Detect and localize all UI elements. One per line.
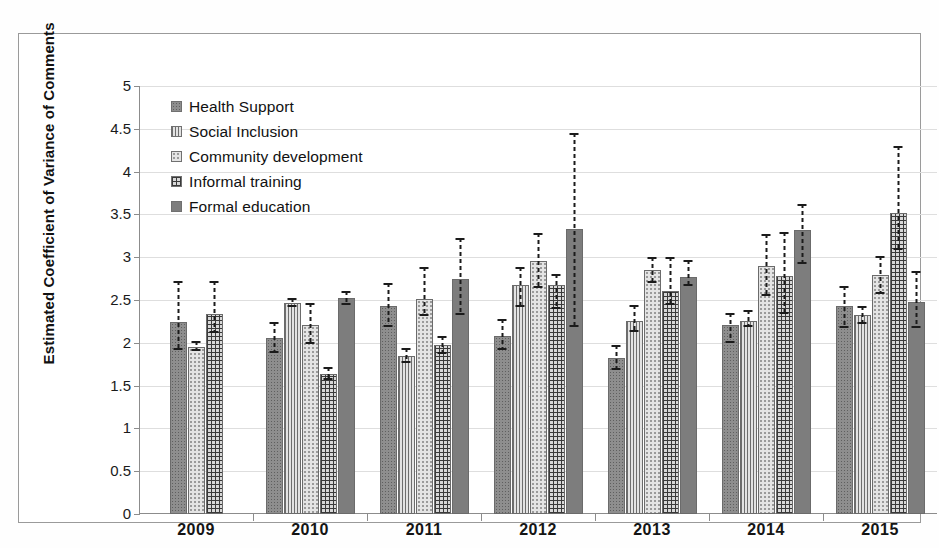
bar-slot: [794, 86, 811, 514]
legend-label: Community development: [189, 148, 363, 166]
x-axis-label-2009: 2009: [139, 521, 253, 539]
bar-group-2015: [823, 86, 937, 514]
x-axis-label-2015: 2015: [823, 521, 937, 539]
error-bar-cap-top: [192, 341, 201, 343]
bar-community-development-2009[interactable]: [188, 347, 205, 514]
bar-informal-training-2013[interactable]: [662, 291, 679, 514]
bar-informal-training-2011[interactable]: [434, 345, 451, 514]
legend-item-social-inclusion[interactable]: Social Inclusion: [171, 119, 363, 144]
bar-formal-education-2014[interactable]: [794, 230, 811, 514]
error-bar-cap-top: [612, 345, 621, 347]
bar-slot: [380, 86, 397, 514]
bar-social-inclusion-2013[interactable]: [626, 321, 643, 514]
error-bar-cap-top: [912, 271, 921, 273]
error-bar-cap-top: [534, 233, 543, 235]
bar-health-support-2013[interactable]: [608, 358, 625, 514]
bar-informal-training-2014[interactable]: [776, 276, 793, 514]
error-bar-cap-top: [288, 298, 297, 300]
x-axis-label-2011: 2011: [367, 521, 481, 539]
legend-label: Informal training: [189, 173, 302, 191]
bar-group-2013: [595, 86, 709, 514]
y-tick-label: 3.5: [71, 205, 131, 222]
bar-health-support-2009[interactable]: [170, 322, 187, 514]
error-bar-cap-top: [726, 313, 735, 315]
bar-informal-training-2010[interactable]: [320, 374, 337, 514]
bar-slot: [398, 86, 415, 514]
bar-slot: [494, 86, 511, 514]
figure-frame: Estimated Coefficient of Variance of Com…: [18, 33, 921, 523]
error-bar-cap-top: [384, 283, 393, 285]
y-tick-label: 0.5: [71, 462, 131, 479]
chart-figure: Estimated Coefficient of Variance of Com…: [0, 0, 939, 548]
error-bar-cap-top: [438, 336, 447, 338]
y-tick-label: 1: [71, 419, 131, 436]
legend: Health SupportSocial InclusionCommunity …: [171, 94, 363, 219]
bar-informal-training-2009[interactable]: [206, 314, 223, 514]
bar-social-inclusion-2012[interactable]: [512, 285, 529, 514]
bar-slot: [740, 86, 757, 514]
bar-community-development-2010[interactable]: [302, 325, 319, 514]
bar-formal-education-2013[interactable]: [680, 277, 697, 514]
error-bar-cap-top: [270, 322, 279, 324]
bar-community-development-2014[interactable]: [758, 266, 775, 514]
x-axis-label-2010: 2010: [253, 521, 367, 539]
bar-group-2011: [367, 86, 481, 514]
error-bar-cap-top: [744, 310, 753, 312]
bar-slot: [662, 86, 679, 514]
error-bar-cap-top: [402, 348, 411, 350]
error-bar-cap-top: [840, 286, 849, 288]
legend-label: Health Support: [189, 98, 294, 116]
legend-item-health-support[interactable]: Health Support: [171, 94, 363, 119]
bar-formal-education-2011[interactable]: [452, 279, 469, 514]
bar-informal-training-2015[interactable]: [890, 213, 907, 514]
bar-formal-education-2010[interactable]: [338, 298, 355, 514]
error-bar-cap-top: [630, 305, 639, 307]
bar-slot: [452, 86, 469, 514]
bar-community-development-2015[interactable]: [872, 275, 889, 514]
bar-slot: [758, 86, 775, 514]
legend-item-informal-training[interactable]: Informal training: [171, 169, 363, 194]
error-bar-cap-top: [552, 274, 561, 276]
legend-label: Social Inclusion: [189, 123, 298, 141]
error-bar-cap-top: [780, 232, 789, 234]
bar-social-inclusion-2014[interactable]: [740, 321, 757, 514]
y-tick-label: 5: [71, 77, 131, 94]
bar-slot: [854, 86, 871, 514]
error-bar-cap-top: [648, 257, 657, 259]
y-tick-label: 4.5: [71, 120, 131, 137]
x-axis-label-2014: 2014: [709, 521, 823, 539]
error-bar-cap-top: [306, 303, 315, 305]
bar-community-development-2012[interactable]: [530, 261, 547, 514]
bar-health-support-2015[interactable]: [836, 306, 853, 514]
bar-health-support-2012[interactable]: [494, 336, 511, 514]
bar-social-inclusion-2011[interactable]: [398, 356, 415, 514]
bar-formal-education-2015[interactable]: [908, 302, 925, 514]
error-bar-cap-top: [420, 267, 429, 269]
bar-slot: [434, 86, 451, 514]
bar-social-inclusion-2010[interactable]: [284, 303, 301, 514]
y-tick-mark: [134, 514, 140, 515]
bar-slot: [416, 86, 433, 514]
legend-swatch-icon: [171, 101, 182, 112]
legend-item-community-development[interactable]: Community development: [171, 144, 363, 169]
error-bar-cap-top: [798, 204, 807, 206]
legend-label: Formal education: [189, 198, 310, 216]
bar-social-inclusion-2015[interactable]: [854, 315, 871, 514]
error-bar-cap-top: [666, 257, 675, 259]
y-tick-label: 0: [71, 505, 131, 522]
legend-swatch-icon: [171, 201, 182, 212]
bar-health-support-2010[interactable]: [266, 338, 283, 514]
bar-slot: [512, 86, 529, 514]
y-tick-label: 1.5: [71, 377, 131, 394]
bar-community-development-2011[interactable]: [416, 299, 433, 514]
bar-informal-training-2012[interactable]: [548, 285, 565, 514]
error-bar-cap-top: [516, 267, 525, 269]
bar-formal-education-2012[interactable]: [566, 229, 583, 514]
bar-health-support-2014[interactable]: [722, 325, 739, 514]
legend-item-formal-education[interactable]: Formal education: [171, 194, 363, 219]
bar-community-development-2013[interactable]: [644, 270, 661, 514]
y-axis-title: Estimated Coefficient of Variance of Com…: [40, 13, 59, 373]
bar-health-support-2011[interactable]: [380, 306, 397, 514]
y-tick-label: 3: [71, 248, 131, 265]
legend-swatch-icon: [171, 126, 182, 137]
